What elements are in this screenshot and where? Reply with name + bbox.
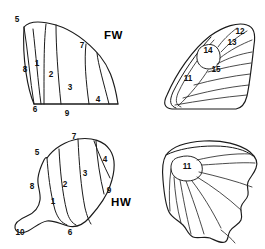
region-number-4: 4 [96,95,101,104]
region-number-13: 13 [227,38,237,47]
region-number-1: 1 [51,197,56,206]
region-number-7: 7 [80,41,85,50]
region-number-5: 5 [15,15,20,24]
region-number-9: 9 [65,109,70,118]
region-number-2: 2 [63,180,68,189]
region-number-4: 4 [103,155,108,164]
forewing-venation-panel: 12 13 14 15 11 [133,0,265,125]
forewing-label: FW [104,29,123,41]
region-number-2: 2 [49,70,54,79]
region-number-3: 3 [83,169,88,178]
hindwing-label: HW [111,196,131,208]
region-number-6: 6 [33,105,38,114]
region-number-1: 1 [35,59,40,68]
region-number-7: 7 [72,132,77,141]
region-number-14: 14 [203,46,213,55]
forewing-outline-panel: 5 8 1 2 7 3 4 6 9 FW [0,0,133,125]
region-number-8: 8 [30,182,35,191]
wing-diagram-figure: 5 8 1 2 7 3 4 6 9 FW [0,0,265,249]
hindwing-venation-outline [163,141,257,243]
region-number-5: 5 [35,148,40,157]
region-number-15: 15 [211,65,221,74]
hindwing-venation-numbers: 11 [183,162,192,171]
region-number-12: 12 [235,27,245,36]
hindwing-outline-panel: 7 5 4 3 8 2 9 1 10 6 HW [0,125,133,249]
region-number-11: 11 [183,162,192,171]
hindwing-venation-panel: 11 [133,125,265,249]
region-number-8: 8 [23,65,28,74]
region-number-11: 11 [184,74,193,83]
region-number-6: 6 [68,228,73,237]
region-number-3: 3 [68,83,73,92]
region-number-9: 9 [107,186,112,195]
region-number-10: 10 [15,228,25,237]
